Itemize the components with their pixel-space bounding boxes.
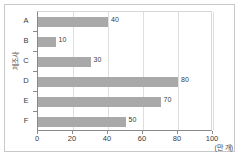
bar xyxy=(38,77,178,87)
bar-series: 401030807050 xyxy=(38,12,211,130)
x-axis-tick-label: 0 xyxy=(25,134,49,143)
bar-value-label: 40 xyxy=(111,15,119,25)
gridline xyxy=(213,12,214,130)
bar-row: 10 xyxy=(38,32,211,52)
y-axis-category-label: B xyxy=(19,36,33,46)
bar-value-label: 70 xyxy=(164,95,172,105)
bar xyxy=(38,37,56,47)
y-axis-category-label: A xyxy=(19,16,33,26)
y-axis-category-label: D xyxy=(19,76,33,86)
bar-value-label: 30 xyxy=(94,55,102,65)
x-axis-tick-label: 20 xyxy=(60,134,84,143)
x-axis-tick-label: 80 xyxy=(165,134,189,143)
bar-value-label: 80 xyxy=(181,75,189,85)
y-axis-category-label: F xyxy=(19,116,33,126)
bar-row: 80 xyxy=(38,72,211,92)
bar-row: 30 xyxy=(38,52,211,72)
bar-row: 50 xyxy=(38,112,211,132)
bar-value-label: 10 xyxy=(59,35,67,45)
x-axis-tick-label: 40 xyxy=(95,134,119,143)
y-axis-category-label: E xyxy=(19,96,33,106)
bar-row: 70 xyxy=(38,92,211,112)
bar xyxy=(38,97,161,107)
x-axis-tick-label: 60 xyxy=(130,134,154,143)
bar-value-label: 50 xyxy=(129,115,137,125)
plot-area: 401030807050 xyxy=(37,11,212,131)
bar xyxy=(38,117,126,127)
chart-figure: 제조사 ABCDEF 401030807050 020406080100 (만 … xyxy=(0,0,243,167)
bar-row: 40 xyxy=(38,12,211,32)
bar xyxy=(38,57,91,67)
bar xyxy=(38,17,108,27)
x-axis-unit-label: (만 개) xyxy=(214,142,233,152)
y-axis-category-label: C xyxy=(19,56,33,66)
